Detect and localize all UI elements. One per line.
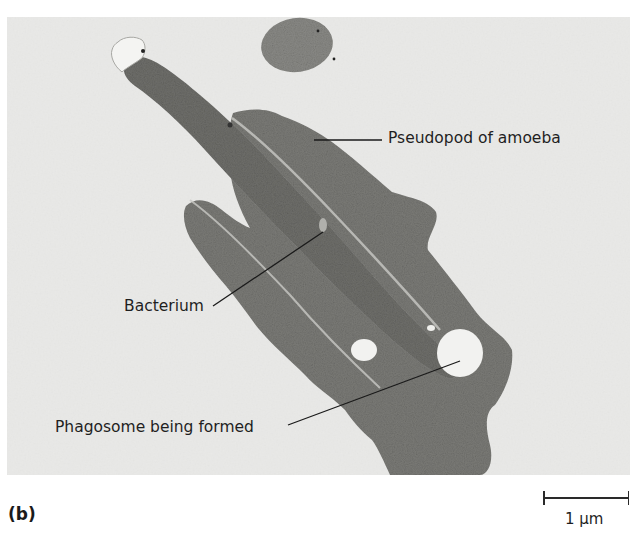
- scale-bar-label: 1 μm: [565, 510, 603, 528]
- panel-label: (b): [8, 504, 36, 524]
- scale-bar: [543, 491, 629, 505]
- phagosome: [437, 329, 483, 377]
- scale-bar-right-tick: [628, 491, 630, 505]
- micrograph-drawing: [7, 17, 630, 475]
- electron-micrograph: [7, 17, 630, 475]
- scale-bar-line: [543, 497, 629, 499]
- bacterium-label: Bacterium: [124, 299, 204, 315]
- phagosome-label: Phagosome being formed: [55, 420, 254, 436]
- vacuole: [351, 339, 377, 361]
- pseudopod-label: Pseudopod of amoeba: [388, 131, 561, 147]
